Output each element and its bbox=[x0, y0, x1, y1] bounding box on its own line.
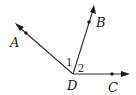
label-c: C bbox=[108, 80, 118, 95]
angle-label-2: 2 bbox=[78, 61, 84, 75]
arrowhead-c-icon bbox=[121, 71, 130, 77]
angle-label-1: 1 bbox=[66, 55, 72, 69]
label-a: A bbox=[9, 35, 19, 50]
angle-diagram: A B C 1 2 D bbox=[0, 0, 136, 95]
point-a bbox=[24, 31, 27, 34]
point-b bbox=[87, 20, 90, 23]
label-b: B bbox=[95, 15, 106, 30]
point-c bbox=[110, 72, 113, 75]
label-d: D bbox=[66, 78, 78, 93]
arrowhead-b-icon bbox=[90, 5, 96, 14]
